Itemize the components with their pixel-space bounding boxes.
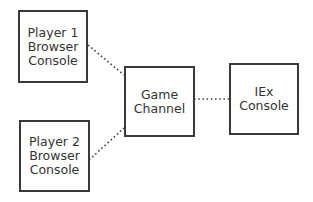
label-line: Console (29, 163, 80, 177)
label-line: Browser (29, 149, 80, 163)
node-player1-browser-console: Player 1 Browser Console (18, 10, 88, 83)
node-label: Player 2 Browser Console (29, 135, 80, 177)
label-line: Console (28, 54, 79, 68)
label-line: Browser (28, 40, 79, 54)
node-label: Player 1 Browser Console (28, 26, 79, 68)
label-line: Console (239, 99, 289, 113)
label-line: Channel (134, 102, 185, 116)
label-line: IEx (239, 85, 289, 99)
label-line: Player 2 (29, 135, 80, 149)
node-label: Game Channel (134, 88, 185, 116)
node-label: IEx Console (239, 85, 289, 113)
label-line: Game (134, 88, 185, 102)
edge-player2-to-game-channel (89, 128, 124, 160)
node-game-channel: Game Channel (124, 66, 195, 137)
node-iex-console: IEx Console (229, 63, 299, 135)
label-line: Player 1 (28, 26, 79, 40)
edge-player1-to-game-channel (88, 45, 124, 75)
node-player2-browser-console: Player 2 Browser Console (19, 120, 90, 192)
